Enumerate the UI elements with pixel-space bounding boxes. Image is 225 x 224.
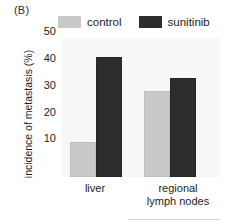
bar-group-liver	[70, 57, 122, 177]
bottom-rule	[128, 219, 220, 220]
plot-area: 1020304050	[62, 38, 220, 177]
y-axis-title: incidence of metastasis (%)	[22, 39, 34, 189]
bar-sunitinib-regional-lymph-nodes	[170, 78, 196, 177]
legend-entry-sunitinib: sunitinib	[139, 16, 210, 28]
bar-group-regional-lymph-nodes	[144, 78, 196, 177]
y-axis-tick-50: 50	[44, 25, 56, 37]
legend-label-control: control	[87, 16, 122, 28]
x-axis-label-regional-line2: lymph nodes	[136, 195, 220, 208]
bar-control-liver	[70, 142, 96, 177]
x-axis-label-regional-line1: regional	[136, 182, 220, 195]
bar-sunitinib-liver	[96, 57, 122, 177]
y-axis-tick-10: 10	[44, 132, 56, 144]
chart-legend: control sunitinib	[58, 16, 210, 28]
y-axis-tick-40: 40	[44, 52, 56, 64]
legend-entry-control: control	[58, 16, 122, 28]
bar-control-regional-lymph-nodes	[144, 91, 170, 177]
legend-swatch-control	[58, 16, 81, 28]
x-axis-label-regional-lymph-nodes: regional lymph nodes	[136, 182, 220, 207]
legend-swatch-sunitinib	[139, 16, 162, 28]
legend-label-sunitinib: sunitinib	[168, 16, 210, 28]
y-axis-tick-20: 20	[44, 106, 56, 118]
x-axis-label-liver: liver	[62, 182, 128, 195]
panel-label: (B)	[14, 4, 29, 16]
x-axis-label-liver-line1: liver	[62, 182, 128, 195]
y-axis-tick-30: 30	[44, 79, 56, 91]
